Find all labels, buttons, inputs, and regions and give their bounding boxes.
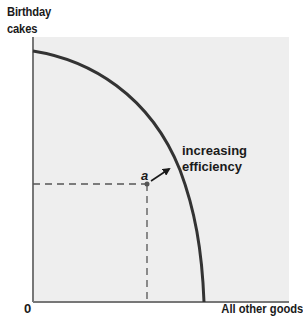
annotation-line1: increasing xyxy=(182,143,247,158)
point-a-label: a xyxy=(141,168,148,183)
origin-label: 0 xyxy=(24,301,31,316)
annotation-line2: efficiency xyxy=(182,159,243,174)
ppf-chart: a increasing efficiency xyxy=(0,0,303,317)
plot-area xyxy=(33,37,289,302)
x-axis-label: All other goods xyxy=(221,301,303,316)
